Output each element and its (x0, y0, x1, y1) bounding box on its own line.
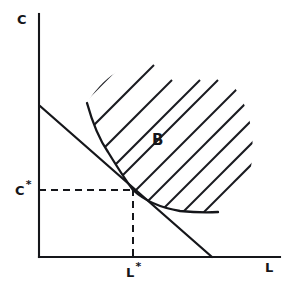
region-b-label: B (152, 133, 163, 148)
leisure-axis-label: L (265, 261, 273, 274)
figure-canvas: C L B C* L* (0, 0, 293, 293)
l-star-tick-label: L* (126, 266, 134, 279)
l-star-superscript: * (136, 261, 142, 272)
diagram-svg (0, 0, 293, 293)
c-star-superscript: * (26, 179, 32, 190)
region-b-hatching (0, 50, 293, 292)
c-star-base: C (15, 183, 25, 198)
l-star-base: L (126, 265, 134, 280)
consumption-axis-label: C (17, 13, 27, 26)
c-star-tick-label: C* (15, 184, 25, 197)
